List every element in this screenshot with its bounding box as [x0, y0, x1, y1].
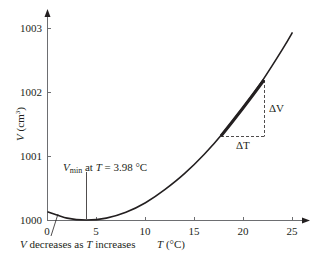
- y-ticks: [48, 29, 52, 157]
- y-axis-arrow-icon: [45, 9, 51, 17]
- x-tick-label-10: 10: [135, 225, 155, 237]
- y-tick-label-1002: 1002: [6, 86, 42, 98]
- y-tick-label-1003: 1003: [6, 22, 42, 34]
- x-ticks: [97, 217, 293, 221]
- x-axis-arrow-icon: [302, 218, 310, 224]
- tangent-segment: [221, 80, 264, 136]
- delta-t-label: ΔT: [236, 139, 250, 151]
- x-tick-label-25: 25: [282, 225, 302, 237]
- delta-v-label: ΔV: [269, 102, 284, 114]
- vmin-annotation: Vmin at T = 3.98 °C: [63, 161, 147, 177]
- x-tick-label-15: 15: [184, 225, 204, 237]
- volume-curve: [48, 32, 293, 220]
- x-tick-label-5: 5: [86, 225, 106, 237]
- y-axis-label: V (cm3): [12, 101, 26, 147]
- decreases-annotation: V decreases as T increases: [20, 238, 135, 250]
- chart-canvas: [0, 0, 320, 261]
- x-tick-label-20: 20: [233, 225, 253, 237]
- x-axis-label: T (°C): [157, 238, 185, 250]
- y-tick-label-1001: 1001: [6, 150, 42, 162]
- x-tick-label-0: 0: [37, 225, 57, 237]
